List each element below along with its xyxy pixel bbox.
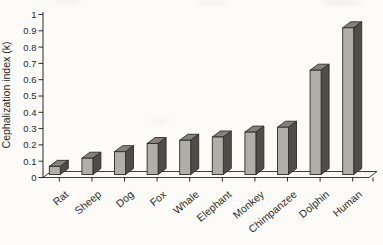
category-label-human: Human bbox=[330, 188, 364, 219]
bar-human-side-face bbox=[354, 22, 362, 175]
bar-elephant-front-face bbox=[212, 137, 223, 174]
bar-elephant bbox=[212, 131, 231, 174]
bar-monkey-side-face bbox=[256, 126, 264, 174]
y-tick-label: 0.1 bbox=[23, 156, 36, 167]
y-tick-label: 0.5 bbox=[23, 90, 36, 101]
bar-elephant-side-face bbox=[223, 131, 231, 174]
scanned-figure-page: 00.10.20.30.40.50.60.70.80.91Cephalizati… bbox=[0, 0, 383, 245]
bar-rat-front-face bbox=[49, 166, 60, 174]
y-tick-label: 0.4 bbox=[23, 107, 36, 118]
bar-dog-front-face bbox=[115, 152, 126, 175]
category-label-dog: Dog bbox=[113, 188, 136, 210]
bar-dolphin-side-face bbox=[321, 64, 329, 174]
bar-chimpanzee-front-face bbox=[278, 127, 289, 174]
x-axis-ticks bbox=[59, 178, 373, 182]
y-tick-label: 0.7 bbox=[23, 58, 36, 69]
scan-artifact bbox=[195, 1, 229, 5]
y-tick-label: 0.3 bbox=[23, 123, 36, 134]
bar-whale-front-face bbox=[180, 140, 191, 174]
y-tick-label: 0.6 bbox=[23, 74, 36, 85]
bar-dog bbox=[115, 146, 134, 175]
scan-artifact bbox=[322, 0, 362, 5]
bar-fox-side-face bbox=[158, 138, 166, 175]
scan-artifact bbox=[55, 0, 81, 4]
y-tick-label: 0.2 bbox=[23, 139, 36, 150]
bar-dolphin bbox=[310, 64, 329, 174]
y-tick-label: 0.8 bbox=[23, 42, 36, 53]
bar-sheep-front-face bbox=[82, 158, 93, 174]
category-labels: RatSheepDogFoxWhaleElephantMonkeyChimpan… bbox=[50, 187, 364, 235]
bar-fox-front-face bbox=[147, 144, 158, 175]
category-label-sheep: Sheep bbox=[72, 188, 103, 217]
bar-chimpanzee bbox=[278, 121, 297, 174]
bar-sheep bbox=[82, 152, 101, 174]
y-tick-label: 0.9 bbox=[23, 25, 36, 36]
scan-artifact bbox=[150, 118, 172, 123]
bar-dolphin-front-face bbox=[310, 70, 321, 174]
bar-monkey bbox=[245, 126, 264, 174]
bar-chimpanzee-side-face bbox=[289, 121, 297, 174]
category-label-elephant: Elephant bbox=[194, 188, 234, 224]
y-axis-title: Cephalization index (k) bbox=[0, 42, 12, 149]
category-label-dolphin: Dolphin bbox=[296, 188, 331, 220]
bar-human-front-face bbox=[343, 28, 354, 175]
cephalization-index-bar-chart: 00.10.20.30.40.50.60.70.80.91Cephalizati… bbox=[0, 0, 383, 245]
y-tick-label: 0 bbox=[31, 172, 36, 183]
bar-fox bbox=[147, 138, 166, 175]
bars bbox=[49, 22, 361, 175]
category-label-rat: Rat bbox=[50, 188, 70, 208]
bar-whale-side-face bbox=[191, 134, 199, 174]
bar-monkey-front-face bbox=[245, 132, 256, 174]
bar-rat bbox=[49, 160, 68, 174]
y-axis-ticks: 00.10.20.30.40.50.60.70.80.91 bbox=[23, 9, 43, 183]
bar-human bbox=[343, 22, 362, 175]
category-label-fox: Fox bbox=[147, 187, 169, 208]
bar-whale bbox=[180, 134, 199, 174]
y-tick-label: 1 bbox=[31, 9, 36, 20]
